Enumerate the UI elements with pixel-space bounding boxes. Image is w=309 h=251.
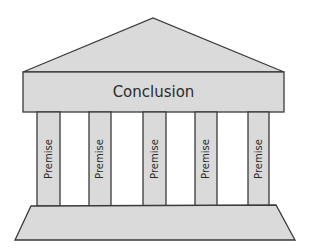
premise-label-3: Premise: [147, 112, 163, 206]
temple-base: [15, 205, 295, 240]
premise-label-5: Premise: [251, 112, 267, 206]
roof-pediment: [23, 18, 284, 72]
premise-label-4: Premise: [198, 112, 214, 206]
premise-label-1: Premise: [41, 112, 57, 206]
conclusion-label: Conclusion: [23, 72, 284, 112]
premise-label-2: Premise: [92, 112, 108, 206]
